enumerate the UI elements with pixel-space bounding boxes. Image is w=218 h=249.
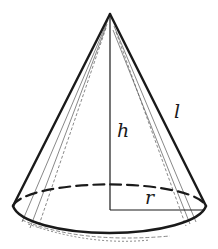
surface-shading-lines <box>22 20 196 241</box>
cone-diagram: h l r <box>0 0 218 249</box>
radius-label: r <box>145 186 156 208</box>
right-slant-edge <box>110 14 206 206</box>
height-label: h <box>117 119 129 141</box>
slant-label: l <box>174 100 180 122</box>
left-slant-edge <box>13 14 110 206</box>
